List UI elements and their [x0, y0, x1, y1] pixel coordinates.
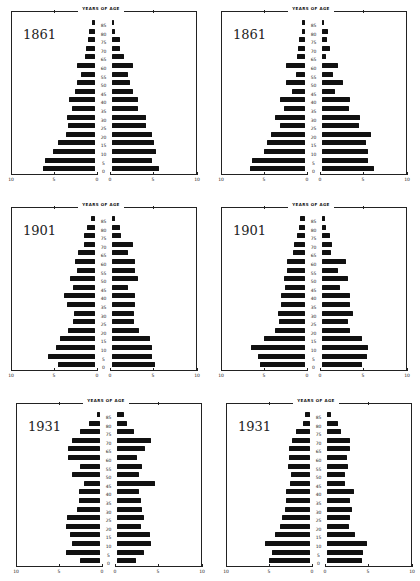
- bar-left: [66, 550, 100, 555]
- bar-left: [60, 336, 95, 341]
- age-label: 65: [102, 449, 115, 455]
- bar-left: [290, 481, 310, 486]
- bars: 8580757065605550454035302520151050: [0, 196, 200, 382]
- bar-left: [72, 472, 100, 477]
- bar-left: [77, 268, 95, 273]
- bar-left: [84, 242, 95, 247]
- age-label: 20: [312, 527, 325, 533]
- bar-right: [112, 63, 133, 68]
- bar-left: [77, 63, 95, 68]
- bar-left: [72, 438, 100, 443]
- pyramid-panel: YEARS OF AGE1861105005108580757065605550…: [210, 0, 410, 186]
- bar-left: [280, 97, 305, 102]
- bar-left: [264, 336, 305, 341]
- age-label: 60: [102, 458, 115, 464]
- bar-right: [117, 489, 139, 494]
- age-label: 70: [312, 441, 325, 447]
- bar-left: [251, 345, 305, 350]
- bar-right: [322, 46, 330, 51]
- bar-left: [84, 233, 95, 238]
- bars: 8580757065605550454035302520151050: [210, 0, 410, 186]
- bar-left: [305, 412, 310, 417]
- bar-left: [297, 233, 305, 238]
- bar-right: [322, 54, 326, 59]
- bar-right: [112, 328, 139, 333]
- bar-left: [285, 507, 310, 512]
- age-label: 55: [307, 75, 320, 81]
- bar-right: [322, 293, 350, 298]
- bar-left: [284, 276, 305, 281]
- bar-left: [84, 481, 100, 486]
- age-label: 85: [312, 415, 325, 421]
- bar-right: [112, 354, 152, 359]
- bar-left: [87, 225, 95, 230]
- bar-right: [117, 412, 124, 417]
- bar-right: [327, 541, 367, 546]
- age-label: 40: [97, 100, 110, 106]
- bar-left: [292, 89, 305, 94]
- age-label: 75: [307, 40, 320, 46]
- bar-right: [322, 63, 338, 68]
- bar-left: [303, 421, 310, 426]
- bar-left: [271, 132, 305, 137]
- bar-left: [58, 362, 95, 367]
- age-label: 65: [97, 57, 110, 63]
- age-label: 35: [97, 109, 110, 115]
- bar-right: [322, 149, 368, 154]
- bar-left: [296, 429, 310, 434]
- age-label: 5: [97, 161, 110, 167]
- bar-right: [112, 20, 114, 25]
- bar-right: [112, 158, 152, 163]
- bar-right: [322, 311, 353, 316]
- bar-right: [112, 80, 130, 85]
- age-label: 40: [307, 100, 320, 106]
- bar-left: [278, 311, 305, 316]
- bar-right: [112, 293, 135, 298]
- bar-right: [117, 498, 141, 503]
- age-label: 25: [312, 518, 325, 524]
- age-label: 40: [102, 492, 115, 498]
- bar-left: [67, 515, 100, 520]
- bar-right: [322, 158, 368, 163]
- bar-left: [279, 319, 305, 324]
- bar-right: [112, 268, 135, 273]
- bar-right: [117, 532, 150, 537]
- bar-left: [289, 446, 311, 451]
- bar-left: [260, 362, 305, 367]
- age-label: 30: [97, 118, 110, 124]
- age-label: 10: [307, 152, 320, 158]
- bar-right: [112, 149, 156, 154]
- bar-right: [322, 123, 359, 128]
- bar-right: [117, 421, 127, 426]
- bar-left: [79, 498, 100, 503]
- age-label: 20: [97, 331, 110, 337]
- bar-right: [322, 20, 324, 25]
- bar-right: [117, 429, 134, 434]
- bar-right: [327, 481, 345, 486]
- bar-right: [117, 507, 142, 512]
- age-label: 60: [97, 262, 110, 268]
- bar-left: [58, 140, 95, 145]
- bar-right: [327, 412, 331, 417]
- age-label: 35: [307, 305, 320, 311]
- age-label: 85: [97, 219, 110, 225]
- bar-left: [258, 354, 305, 359]
- bar-left: [296, 72, 305, 77]
- bar-right: [112, 336, 150, 341]
- bar-left: [73, 285, 95, 290]
- bar-left: [91, 216, 95, 221]
- age-label: 20: [102, 527, 115, 533]
- age-label: 65: [307, 57, 320, 63]
- bar-right: [112, 311, 134, 316]
- age-label: 15: [97, 339, 110, 345]
- bar-left: [78, 250, 95, 255]
- bar-left: [77, 507, 100, 512]
- age-label: 0: [307, 169, 320, 175]
- bar-left: [53, 149, 95, 154]
- age-label: 10: [97, 348, 110, 354]
- age-label: 30: [102, 510, 115, 516]
- age-label: 80: [312, 424, 325, 430]
- age-label: 60: [307, 262, 320, 268]
- age-label: 45: [307, 288, 320, 294]
- bar-left: [43, 166, 95, 171]
